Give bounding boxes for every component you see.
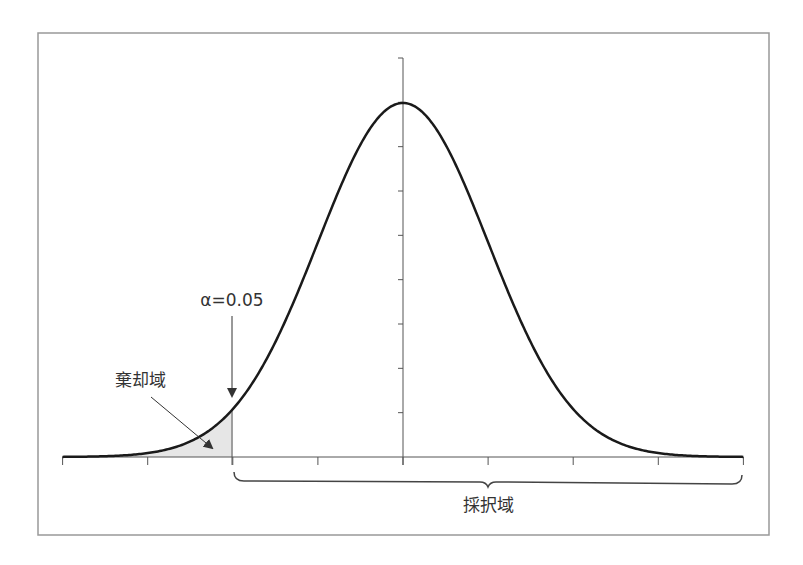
acceptance-region-brace [234,472,742,487]
rejection-region-label: 棄却域 [115,370,166,390]
rejection-region-arrow [151,397,212,448]
normal-distribution-figure: α=0.05 棄却域 採択域 [0,0,803,565]
acceptance-region-label: 採択域 [463,495,514,515]
y-axis-ticks [398,58,403,413]
alpha-label: α=0.05 [200,290,263,310]
